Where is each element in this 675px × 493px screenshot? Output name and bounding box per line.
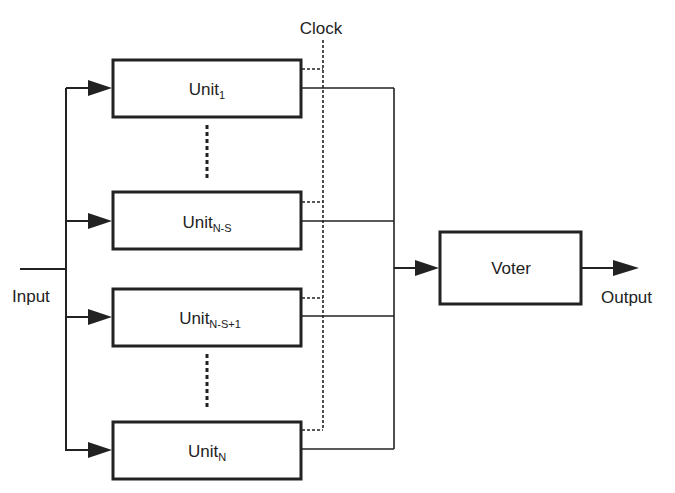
clock-label: Clock <box>300 19 343 38</box>
clock-line <box>302 40 323 430</box>
diagram-svg: Unit1 UnitN-S UnitN-S+1 UnitN Clock Vote… <box>0 0 675 493</box>
arrow-icon <box>613 260 639 276</box>
arrow-icon <box>88 80 112 96</box>
input-bus <box>20 88 66 451</box>
output-arrow <box>582 260 639 276</box>
output-bus <box>302 88 394 449</box>
diagram-canvas: Unit1 UnitN-S UnitN-S+1 UnitN Clock Vote… <box>0 0 675 493</box>
voter-label: Voter <box>491 259 531 278</box>
output-label: Output <box>601 288 652 307</box>
arrow-icon <box>88 442 112 458</box>
arrow-icon <box>88 213 112 229</box>
input-arrows <box>66 80 112 458</box>
voter-input-arrow <box>394 260 439 276</box>
arrow-icon <box>415 260 439 276</box>
arrow-icon <box>88 309 112 325</box>
input-label: Input <box>12 287 50 306</box>
